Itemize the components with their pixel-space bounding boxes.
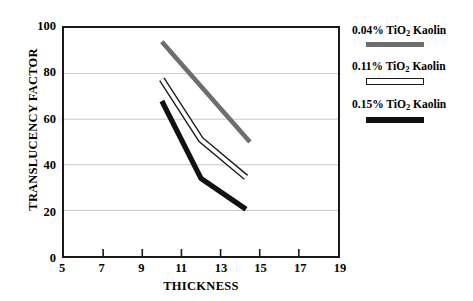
legend-label-2: 0.15% TiO2 Kaolin <box>352 98 470 111</box>
legend-entry-0: 0.04% TiO2 Kaolin <box>352 24 470 47</box>
chart-figure: TRANSLUCENCY FACTOR 100 80 60 40 20 0 5 … <box>0 0 473 301</box>
y-tick-label: 60 <box>16 113 56 126</box>
x-tick-label: 19 <box>327 262 353 275</box>
legend-label-prefix: 0.11% TiO <box>352 60 405 72</box>
x-tick-label: 5 <box>49 262 75 275</box>
x-tick-label: 15 <box>248 262 274 275</box>
legend-label-0: 0.04% TiO2 Kaolin <box>352 24 470 37</box>
y-tick-label: 80 <box>16 66 56 79</box>
legend-label-subscript: 2 <box>406 28 410 38</box>
x-tick-label: 13 <box>208 262 234 275</box>
legend-swatch-gray-line <box>366 42 424 47</box>
legend: 0.04% TiO2 Kaolin 0.11% TiO2 Kaolin 0.15… <box>352 24 470 136</box>
y-tick-label: 100 <box>16 20 56 33</box>
plot-area <box>62 26 340 258</box>
legend-swatch-black-line <box>366 117 424 123</box>
x-tick-label: 17 <box>287 262 313 275</box>
x-tick-marks <box>103 249 299 256</box>
series-line-2 <box>162 101 246 209</box>
y-tick-label: 40 <box>16 159 56 172</box>
legend-entry-2: 0.15% TiO2 Kaolin <box>352 98 470 122</box>
y-tick-label: 20 <box>16 206 56 219</box>
legend-label-subscript: 2 <box>405 64 409 74</box>
x-tick-label: 9 <box>128 262 154 275</box>
legend-label-suffix: Kaolin <box>410 98 446 110</box>
legend-label-1: 0.11% TiO2 Kaolin <box>352 60 470 73</box>
legend-label-suffix: Kaolin <box>410 24 446 36</box>
legend-entry-1: 0.11% TiO2 Kaolin <box>352 60 470 85</box>
x-tick-label: 11 <box>168 262 194 275</box>
legend-label-suffix: Kaolin <box>410 60 446 72</box>
legend-swatch-hollow-line <box>366 78 424 85</box>
x-axis-title: THICKNESS <box>62 279 340 294</box>
legend-label-subscript: 2 <box>406 102 410 112</box>
legend-label-prefix: 0.15% TiO <box>352 98 406 110</box>
legend-label-prefix: 0.04% TiO <box>352 24 406 36</box>
data-series-layer <box>162 42 250 210</box>
plot-canvas <box>64 28 338 256</box>
x-tick-label: 7 <box>89 262 115 275</box>
